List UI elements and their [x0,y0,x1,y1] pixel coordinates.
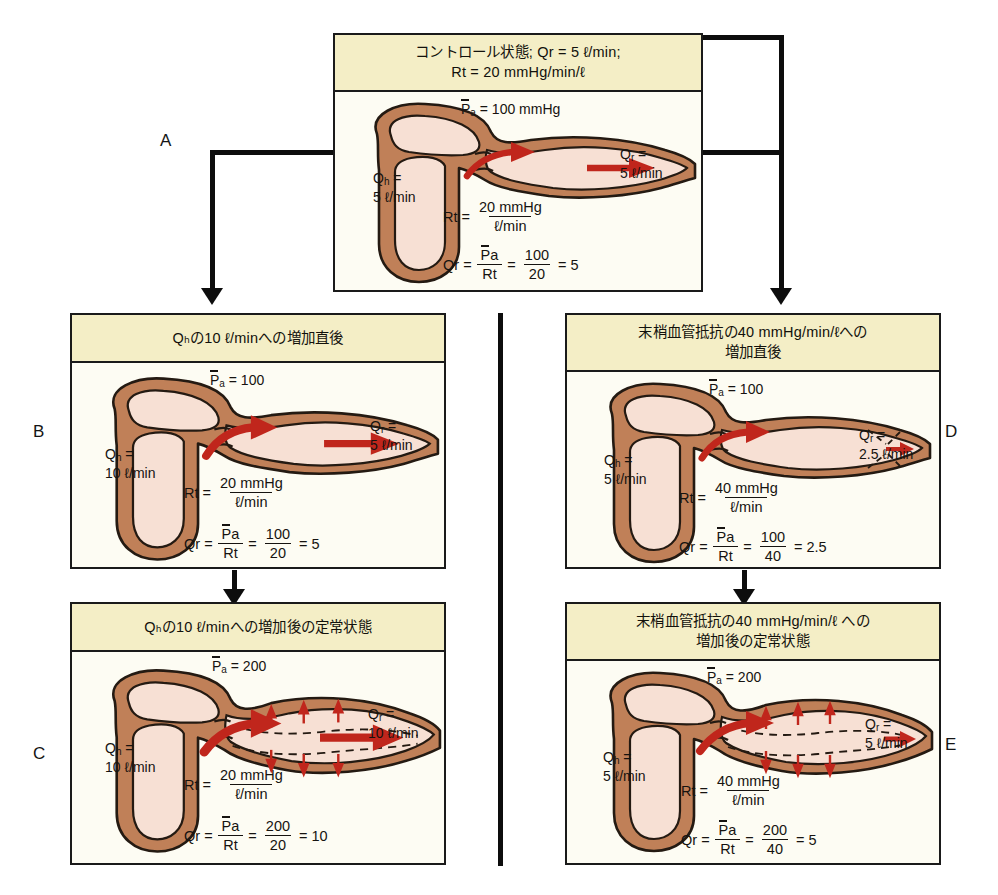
resistance-denominator-e: ℓ/min [727,790,769,808]
flow-equation-d: Qr= Pa Rt = 100 40 = 2.5 [679,529,831,564]
calc-denominator-b: 20 [265,543,291,561]
resistance-denominator-c: ℓ/min [230,784,272,802]
panel-a-header-line1: コントロール状態; Qr = 5 ℓ/min; [341,42,695,62]
panel-letter-e: E [945,735,956,755]
panel-d-header-line2: 増加直後 [573,342,933,362]
panel-a-header: コントロール状態; Qr = 5 ℓ/min; Rt = 20 mmHg/min… [335,35,701,92]
resistance-denominator-b: ℓ/min [230,492,272,510]
resistance-numerator-e: 40 mmHg [712,773,785,790]
flow-equation-e: Qr= Pa Rt = 200 40 = 5 [681,822,821,857]
panel-letter-d: D [945,422,957,442]
panel-a-body: Pa = 100 mmHg Qh =5 ℓ/min Qr =5 ℓ/min Rt… [335,92,701,290]
panel-b: Qₕの10 ℓ/minへの増加直後 Pa = 100 Qh =10 ℓ/min [70,313,446,569]
qr-label-a: Qr =5 ℓ/min [620,146,663,182]
calc-denominator-c: 20 [265,835,291,853]
calc-numerator-a: 100 [520,247,554,264]
panel-e-header-line1: 末梢血管抵抗の40 mmHg/min/ℓ への [573,611,933,631]
panel-d-header: 末梢血管抵抗の40 mmHg/min/ℓへの 増加直後 [567,315,939,372]
resistance-equation-a: Rt= 20 mmHg ℓ/min [443,199,547,234]
calc-denominator-a: 20 [524,264,550,282]
resistance-equation-e: Rt= 40 mmHg ℓ/min [681,773,785,808]
arrowhead-a-to-b [201,288,223,305]
panel-c: Qₕの10 ℓ/minへの増加後の定常状態 [70,602,446,865]
resistance-equation-c: Rt= 20 mmHg ℓ/min [184,767,288,802]
qr-label-e: Qr =5 ℓ/min [865,716,908,752]
qh-label-e: Qh =5 ℓ/min [603,749,646,785]
panel-a: コントロール状態; Qr = 5 ℓ/min; Rt = 20 mmHg/min… [333,33,703,292]
qh-label-a: Qh =5 ℓ/min [373,170,416,206]
panel-e-body: Pa = 200 Qh =5 ℓ/min Qr =5 ℓ/min Rt= 40 … [567,661,939,863]
resistance-numerator-a: 20 mmHg [474,199,547,216]
calc-denominator-d: 40 [760,546,786,564]
qh-label-d: Qh =5 ℓ/min [604,452,647,488]
resistance-numerator-c: 20 mmHg [215,767,288,784]
flow-equation-a: Qr= Pa Rt = 100 20 = 5 [443,247,583,282]
qr-label-b: Qr =5 ℓ/min [370,418,413,454]
calc-result-b: = 5 [295,536,324,552]
calc-result-e: = 5 [792,832,821,848]
figure-canvas: A B C D E コントロール状態; Qr = 5 ℓ/min; Rt = 2… [0,0,998,895]
panel-c-header: Qₕの10 ℓ/minへの増加後の定常状態 [72,604,444,652]
panel-c-body: Pa = 200 Qh =10 ℓ/min Qr =10 ℓ/min Rt= 2… [72,652,444,863]
flow-equation-c: Qr= Pa Rt = 200 20 = 10 [184,818,332,853]
panel-a-header-line2: Rt = 20 mmHg/min/ℓ [341,62,695,82]
calc-result-a: = 5 [554,257,583,273]
panel-letter-c: C [33,744,45,764]
pressure-label-d: Pa = 100 [709,381,763,400]
panel-d-header-line1: 末梢血管抵抗の40 mmHg/min/ℓへの [573,322,933,342]
panel-e-header-line2: 増加後の定常状態 [573,631,933,651]
qr-label-c: Qr =10 ℓ/min [368,706,418,742]
pressure-label-c: Pa = 200 [212,658,266,677]
panel-letter-a: A [160,131,171,151]
pressure-label-a: Pa = 100 mmHg [461,101,560,120]
resistance-equation-b: Rt= 20 mmHg ℓ/min [184,475,288,510]
connector-a-right-vertical [779,35,784,290]
resistance-numerator-b: 20 mmHg [215,475,288,492]
calc-numerator-e: 200 [758,822,792,839]
calc-numerator-b: 100 [261,526,295,543]
flow-equation-b: Qr= Pa Rt = 100 20 = 5 [184,526,324,561]
panel-b-header-line1: Qₕの10 ℓ/minへの増加直後 [78,328,438,348]
pressure-label-e: Pa = 200 [707,669,761,688]
panel-b-body: Pa = 100 Qh =10 ℓ/min Qr =5 ℓ/min Rt= 20… [72,363,444,567]
qh-label-c: Qh =10 ℓ/min [105,740,155,776]
calc-result-c: = 10 [295,828,332,844]
panel-d: 末梢血管抵抗の40 mmHg/min/ℓへの 増加直後 [565,313,941,569]
calc-denominator-e: 40 [762,839,788,857]
panel-b-header: Qₕの10 ℓ/minへの増加直後 [72,315,444,363]
panel-c-header-line1: Qₕの10 ℓ/minへの増加後の定常状態 [78,617,438,637]
resistance-equation-d: Rt= 40 mmHg ℓ/min [679,480,783,515]
column-divider [498,313,503,866]
calc-numerator-c: 200 [261,818,295,835]
resistance-denominator-a: ℓ/min [489,216,531,234]
panel-e-header: 末梢血管抵抗の40 mmHg/min/ℓ への 増加後の定常状態 [567,604,939,661]
connector-a-top-right [700,35,784,40]
calc-result-d: = 2.5 [790,539,831,555]
qr-label-d: Qr =2.5 ℓ/min [859,427,913,463]
arrowhead-a-to-d [770,288,792,305]
panel-d-body: Pa = 100 Qh =5 ℓ/min Qr =2.5 ℓ/min Rt= 4… [567,372,939,567]
connector-a-left-vertical [210,150,215,290]
resistance-numerator-d: 40 mmHg [710,480,783,497]
calc-numerator-d: 100 [756,529,790,546]
resistance-denominator-d: ℓ/min [725,497,767,515]
pressure-label-b: Pa = 100 [210,372,264,391]
connector-a-right-horizontal [700,150,784,155]
panel-e: 末梢血管抵抗の40 mmHg/min/ℓ への 増加後の定常状態 [565,602,941,865]
panel-letter-b: B [33,422,44,442]
connector-a-left-horizontal [210,150,336,155]
qh-label-b: Qh =10 ℓ/min [105,446,155,482]
